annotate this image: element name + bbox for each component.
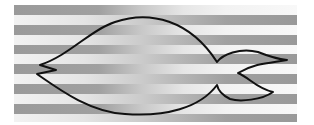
fish-illusion-figure xyxy=(0,0,314,125)
stripe-right-6 xyxy=(14,114,297,122)
illusion-canvas xyxy=(0,0,314,125)
stripe-left-6 xyxy=(14,104,297,114)
stripe-left-2 xyxy=(14,25,297,35)
stripe-left-1 xyxy=(14,5,297,15)
stripe-right-1 xyxy=(14,15,297,25)
stripe-left-5 xyxy=(14,84,297,94)
stripe-right-3 xyxy=(14,54,297,64)
stripe-left-3 xyxy=(14,45,297,54)
stripe-right-2 xyxy=(14,35,297,45)
